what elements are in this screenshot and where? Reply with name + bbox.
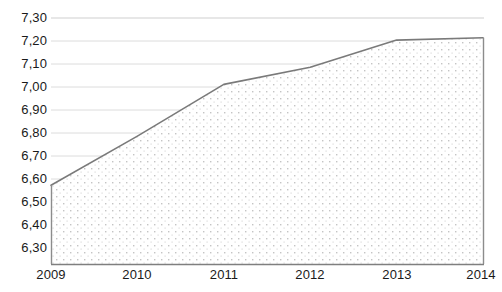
y-tick-label: 6,40 [3, 218, 47, 231]
y-tick-label: 7,20 [3, 34, 47, 47]
x-tick-label: 2014 [451, 268, 502, 281]
y-tick-label: 7,10 [3, 57, 47, 70]
area-chart: 7,30 7,20 7,10 7,00 6,90 6,80 6,70 6,60 … [0, 0, 502, 292]
y-tick-label: 6,90 [3, 103, 47, 116]
series-area-fill [51, 38, 483, 264]
x-tick-label: 2009 [21, 268, 81, 281]
x-tick-label: 2010 [107, 268, 167, 281]
y-tick-label: 6,30 [3, 241, 47, 254]
chart-plot-svg [0, 0, 502, 292]
x-tick-label: 2011 [194, 268, 254, 281]
y-tick-label: 7,30 [3, 11, 47, 24]
y-tick-label: 6,70 [3, 149, 47, 162]
y-axis: 7,30 7,20 7,10 7,00 6,90 6,80 6,70 6,60 … [0, 0, 47, 292]
x-tick-label: 2012 [280, 268, 340, 281]
y-tick-label: 6,60 [3, 172, 47, 185]
x-tick-label: 2013 [367, 268, 427, 281]
y-tick-label: 6,50 [3, 195, 47, 208]
y-tick-label: 7,00 [3, 80, 47, 93]
y-tick-label: 6,80 [3, 126, 47, 139]
